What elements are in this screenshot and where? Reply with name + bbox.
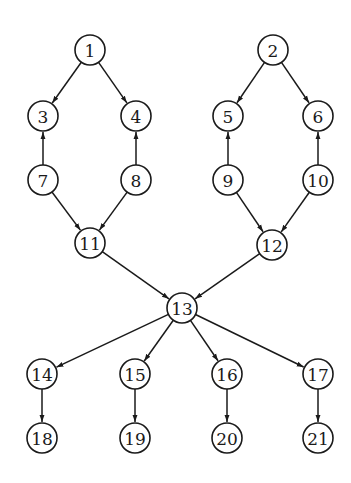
node-16: 16 (212, 359, 242, 389)
node-20: 20 (212, 423, 242, 453)
node-8: 8 (121, 165, 151, 195)
edge-12-to-13 (195, 254, 260, 299)
edge-9-to-12 (236, 192, 263, 231)
node-label: 19 (124, 429, 146, 449)
node-17: 17 (303, 359, 333, 389)
node-10: 10 (303, 165, 333, 195)
edge-11-to-13 (102, 252, 169, 299)
node-label: 5 (223, 107, 234, 127)
directed-graph: 123456789101112131415161718192021 (0, 0, 351, 483)
node-14: 14 (27, 359, 57, 389)
node-label: 14 (31, 365, 53, 385)
node-label: 3 (38, 107, 49, 127)
node-6: 6 (303, 101, 333, 131)
node-label: 1 (85, 41, 96, 61)
edge-2-to-6 (281, 62, 309, 102)
node-4: 4 (121, 101, 151, 131)
edge-1-to-4 (99, 62, 127, 103)
edge-13-to-15 (144, 320, 173, 361)
node-label: 7 (38, 171, 49, 191)
node-15: 15 (120, 359, 150, 389)
edge-1-to-3 (52, 62, 81, 103)
node-1: 1 (75, 35, 105, 65)
edge-13-to-16 (190, 320, 218, 360)
edge-13-to-17 (195, 315, 303, 367)
edge-13-to-14 (56, 314, 168, 367)
node-label: 4 (131, 107, 142, 127)
node-label: 16 (216, 365, 238, 385)
node-label: 21 (307, 429, 329, 449)
node-label: 10 (307, 171, 329, 191)
node-9: 9 (213, 165, 243, 195)
node-label: 9 (223, 171, 234, 191)
node-7: 7 (28, 165, 58, 195)
node-label: 11 (79, 234, 101, 254)
node-label: 17 (307, 365, 329, 385)
node-label: 15 (124, 365, 146, 385)
node-label: 8 (131, 171, 142, 191)
node-13: 13 (167, 293, 197, 323)
node-label: 2 (268, 41, 279, 61)
node-label: 12 (261, 236, 283, 256)
node-2: 2 (258, 35, 288, 65)
node-11: 11 (75, 228, 105, 258)
edge-2-to-5 (237, 62, 265, 102)
node-21: 21 (303, 423, 333, 453)
node-label: 18 (31, 429, 53, 449)
node-19: 19 (120, 423, 150, 453)
node-label: 13 (171, 299, 193, 319)
edge-10-to-12 (281, 192, 309, 232)
nodes-layer: 123456789101112131415161718192021 (27, 35, 333, 453)
node-3: 3 (28, 101, 58, 131)
node-label: 20 (216, 429, 238, 449)
node-18: 18 (27, 423, 57, 453)
node-12: 12 (257, 230, 287, 260)
edge-8-to-11 (99, 192, 127, 230)
node-label: 6 (313, 107, 324, 127)
edge-7-to-11 (52, 192, 80, 230)
node-5: 5 (213, 101, 243, 131)
